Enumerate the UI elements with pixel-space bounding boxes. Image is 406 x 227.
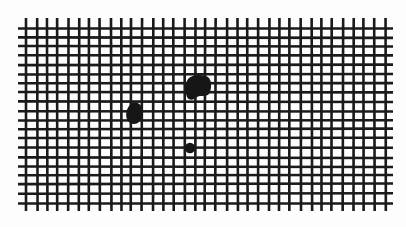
- top-blot: [186, 75, 212, 100]
- horizontal-grid-line: [18, 37, 393, 38]
- blots: [126, 75, 211, 153]
- horizontal-grid-line: [18, 157, 393, 158]
- horizontal-grid-line: [18, 74, 393, 75]
- grid-lines: [18, 18, 393, 211]
- left-blot: [126, 103, 142, 124]
- horizontal-grid-line: [18, 184, 393, 185]
- horizontal-grid-line: [18, 46, 393, 47]
- small-dot: [185, 143, 195, 153]
- horizontal-grid-line: [18, 101, 393, 102]
- horizontal-grid-line: [18, 129, 393, 130]
- grid-canvas: [0, 0, 406, 227]
- amsler-grid-image: [0, 0, 406, 227]
